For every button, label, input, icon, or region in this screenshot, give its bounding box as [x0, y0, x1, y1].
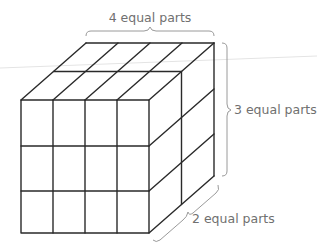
cube-diagram: 4 equal parts 3 equal parts 2 equal part… [0, 0, 317, 252]
top-face [21, 43, 214, 100]
front-face [21, 100, 149, 233]
height-brace [222, 43, 231, 176]
background-line [0, 56, 317, 68]
width-label: 4 equal parts [109, 10, 192, 25]
height-label: 3 equal parts [234, 102, 317, 117]
depth-label: 2 equal parts [192, 211, 275, 226]
width-brace [86, 27, 214, 36]
